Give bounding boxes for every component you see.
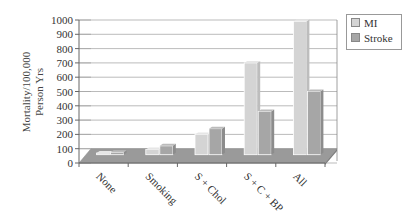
svg-text:None: None bbox=[94, 170, 119, 195]
svg-text:600: 600 bbox=[57, 71, 74, 83]
svg-text:Mortality/100,000Person Yrs: Mortality/100,000Person Yrs bbox=[20, 51, 45, 132]
legend-label: Stroke bbox=[364, 32, 393, 44]
svg-text:800: 800 bbox=[57, 43, 74, 55]
legend-item-mi: MI bbox=[347, 15, 401, 30]
svg-text:900: 900 bbox=[57, 28, 74, 40]
svg-text:1000: 1000 bbox=[51, 14, 74, 26]
svg-text:200: 200 bbox=[57, 128, 74, 140]
legend-swatch-stroke bbox=[351, 33, 360, 42]
svg-text:400: 400 bbox=[57, 100, 74, 112]
svg-text:300: 300 bbox=[57, 114, 74, 126]
svg-text:S + Chol: S + Chol bbox=[193, 170, 229, 206]
legend-swatch-mi bbox=[351, 18, 360, 27]
y-axis-label: Mortality/100,000Person Yrs bbox=[20, 51, 45, 132]
svg-text:100: 100 bbox=[57, 143, 74, 155]
svg-text:All: All bbox=[291, 170, 309, 188]
legend-label: MI bbox=[364, 17, 377, 29]
svg-text:0: 0 bbox=[68, 157, 74, 169]
legend: MI Stroke bbox=[346, 14, 402, 50]
y-tick-labels: 01002003004005006007008009001000 bbox=[51, 14, 79, 169]
x-tick-labels: NoneSmokingS + CholS + C + BPAll bbox=[94, 170, 309, 214]
svg-text:500: 500 bbox=[57, 86, 74, 98]
svg-text:Smoking: Smoking bbox=[143, 170, 180, 207]
svg-text:700: 700 bbox=[57, 57, 74, 69]
legend-item-stroke: Stroke bbox=[347, 30, 401, 45]
svg-text:S + C + BP: S + C + BP bbox=[242, 170, 286, 214]
